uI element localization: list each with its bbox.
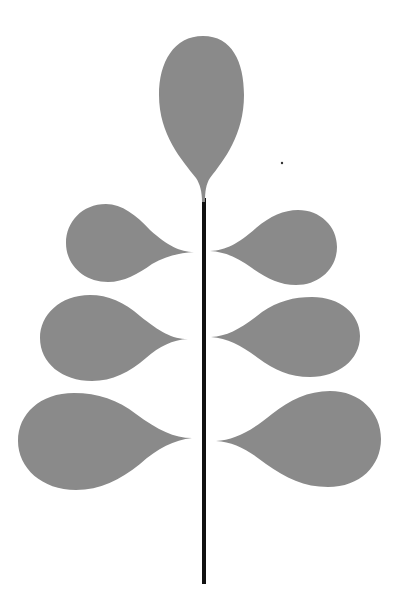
speck xyxy=(281,162,283,164)
right-leaf-1 xyxy=(210,210,337,285)
right-leaf-3 xyxy=(216,391,381,487)
leaf-artwork xyxy=(0,0,404,604)
right-leaf-2 xyxy=(211,297,360,377)
top-leaf xyxy=(159,36,244,202)
leaf-illustration: Stylized leaf illustration: vertical bla… xyxy=(0,0,404,604)
left-leaf-3 xyxy=(18,393,192,490)
left-leaf-1 xyxy=(66,204,194,282)
stem xyxy=(202,198,206,584)
left-leaf-2 xyxy=(40,295,188,381)
